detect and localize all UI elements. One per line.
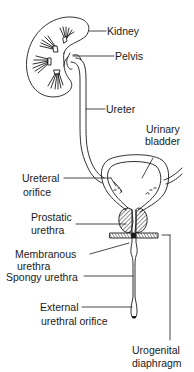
label-external-urethral-orifice-1: External — [40, 301, 79, 313]
ureter — [71, 62, 102, 183]
urinary-bladder-outer — [101, 155, 168, 212]
right-ureter-stub — [164, 168, 182, 184]
label-membranous-urethra-1: Membranous — [15, 248, 76, 260]
prostate-left — [119, 208, 133, 233]
external-urethral-orifice-mark — [132, 316, 136, 318]
label-urinary-bladder-2: bladder — [145, 135, 180, 147]
prostate-right — [135, 208, 147, 233]
label-urinary-bladder-1: Urinary — [146, 123, 180, 135]
label-ureter: Ureter — [106, 103, 135, 115]
label-prostatic-urethra-1: Prostatic — [31, 211, 72, 223]
right-ureteral-orifice — [146, 188, 156, 194]
label-ureteral-orifice-2: orifice — [23, 186, 51, 198]
label-kidney: Kidney — [107, 25, 139, 37]
left-ureteral-orifice — [114, 182, 122, 193]
label-prostatic-urethra-2: urethra — [31, 224, 64, 236]
label-pelvis: Pelvis — [115, 50, 143, 62]
label-spongy-urethra: Spongy urethra — [6, 271, 78, 283]
label-external-urethral-orifice-2: urethral orifice — [41, 315, 108, 327]
label-urogenital-diaphragm-2: diaphragm — [132, 357, 182, 369]
label-urogenital-diaphragm-1: Urogenital — [132, 344, 180, 356]
label-ureteral-orifice-1: Ureteral — [22, 172, 59, 184]
urethra — [131, 210, 137, 318]
